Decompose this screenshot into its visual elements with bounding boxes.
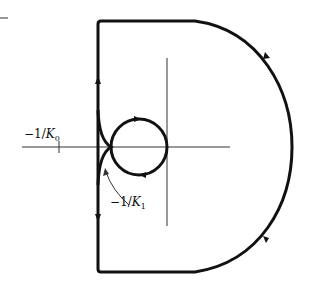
k0-sub: 0 xyxy=(55,134,60,143)
k1-pointer-head xyxy=(103,168,109,176)
label-minus-1-over-k0: −1/K0 xyxy=(24,127,60,143)
arrow-loop-top xyxy=(134,116,141,122)
k0-prefix: −1/ xyxy=(24,127,46,141)
arrow-arc-top xyxy=(263,52,270,59)
k1-prefix: −1/ xyxy=(110,195,132,209)
arrow-down-left xyxy=(95,214,101,222)
k1-sub: 1 xyxy=(141,202,146,211)
arrow-up-left xyxy=(95,76,101,84)
k1-var: K xyxy=(132,195,141,209)
arrow-arc-bottom xyxy=(263,236,269,243)
label-minus-1-over-k1: −1/K1 xyxy=(110,195,146,211)
arrow-loop-bottom xyxy=(139,172,146,178)
k0-var: K xyxy=(46,127,55,141)
